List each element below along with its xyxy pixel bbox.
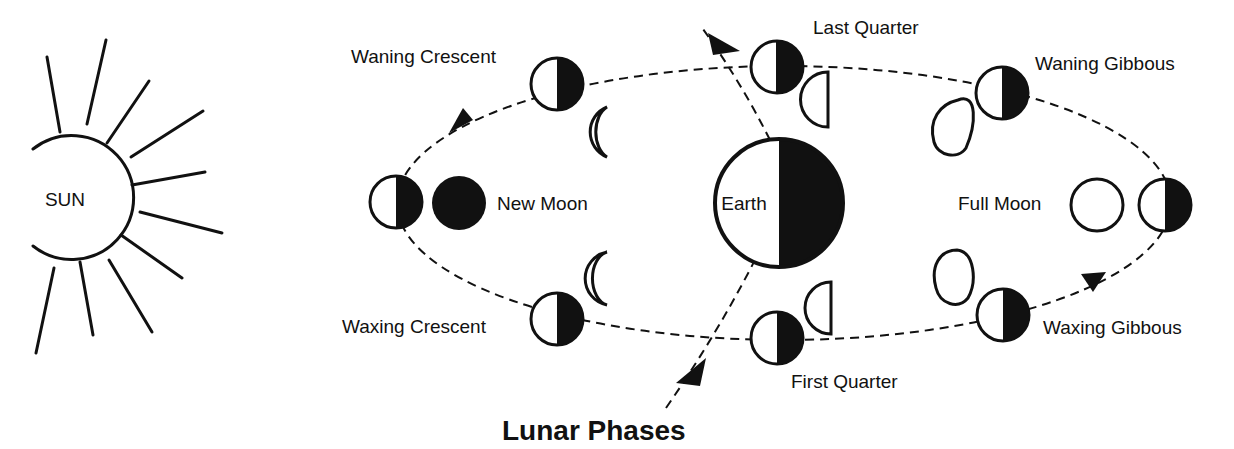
label-last-quarter: Last Quarter (813, 17, 919, 38)
diagram-title: Lunar Phases (502, 415, 686, 446)
label-full-moon: Full Moon (958, 193, 1041, 214)
moon-waning-gibbous-orbit (976, 67, 1028, 119)
earth-night-side (779, 139, 843, 267)
full-moon-appearance (1071, 179, 1123, 231)
moon-first-quarter-orbit (751, 312, 803, 364)
arrow-icon (449, 108, 473, 133)
label-waxing-crescent: Waxing Crescent (342, 316, 487, 337)
earth-spin-path-lower (666, 250, 760, 408)
arrow-icon (676, 358, 706, 386)
moon-last-quarter-orbit (751, 41, 803, 93)
label-waxing-gibbous: Waxing Gibbous (1043, 317, 1182, 338)
lunar-phases-diagram: SUN Earth (0, 0, 1234, 449)
moon-new-orbit (370, 176, 422, 228)
waning-gibbous-appearance (932, 99, 973, 155)
moon-waxing-crescent-orbit (531, 293, 583, 345)
moon-waning-crescent-orbit (531, 58, 583, 110)
waxing-crescent-appearance (585, 252, 607, 305)
earth-label: Earth (721, 193, 766, 214)
sun: SUN (33, 40, 222, 353)
moon-full-orbit (1139, 179, 1191, 231)
label-new-moon: New Moon (497, 193, 588, 214)
waning-crescent-appearance (590, 107, 607, 157)
last-quarter-appearance (801, 72, 828, 127)
waxing-gibbous-appearance (934, 250, 973, 304)
sun-label: SUN (45, 189, 85, 210)
arrow-icon (708, 33, 740, 55)
label-waning-gibbous: Waning Gibbous (1035, 53, 1175, 74)
earth: Earth (715, 139, 843, 267)
new-moon-appearance (432, 176, 486, 230)
moon-waxing-gibbous-orbit (977, 289, 1029, 341)
first-quarter-appearance (805, 282, 831, 334)
label-waning-crescent: Waning Crescent (351, 46, 497, 67)
label-first-quarter: First Quarter (791, 371, 898, 392)
